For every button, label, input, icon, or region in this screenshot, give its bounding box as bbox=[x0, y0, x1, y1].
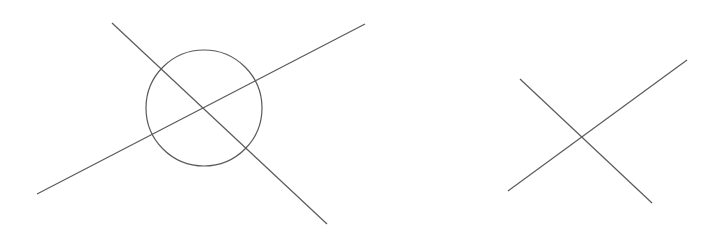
diagram-canvas bbox=[0, 0, 718, 235]
background bbox=[0, 0, 718, 235]
